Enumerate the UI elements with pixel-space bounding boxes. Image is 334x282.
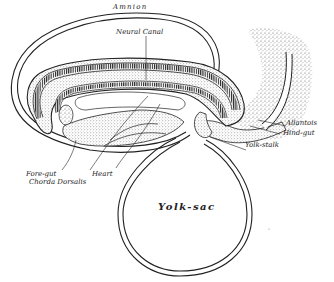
label-heart: Heart	[92, 171, 113, 178]
label-yolk-sac: Yolk-sac	[158, 202, 216, 212]
label-neural-canal: Neural Canal	[116, 29, 163, 36]
label-chorda-dorsalis: Chorda Dorsalis	[29, 179, 86, 186]
label-yolk-stalk: Yolk-stalk	[245, 142, 279, 149]
label-allantois: Allantois	[286, 120, 317, 127]
label-fore-gut: Fore-gut	[26, 171, 56, 178]
label-hind-gut: Hind-gut	[283, 130, 315, 137]
embryo-diagram	[0, 0, 334, 282]
label-amnion: Amnion	[113, 4, 147, 11]
